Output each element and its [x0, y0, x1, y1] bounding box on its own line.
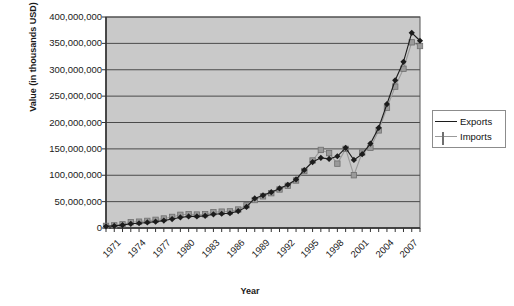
chart-container: 050,000,000100,000,000150,000,000200,000… [0, 0, 514, 306]
legend-item-exports[interactable]: Exports [435, 114, 503, 129]
x-axis-tick-labels: 1971197419771980198319861989199219951998… [0, 0, 514, 306]
legend-item-imports[interactable]: Imports [435, 129, 503, 144]
legend-label-imports: Imports [457, 131, 492, 142]
legend-marker-diamond-icon [435, 116, 457, 127]
legend-label-exports: Exports [457, 116, 492, 127]
y-axis-title: Value (in thousands USD) [28, 0, 38, 142]
x-axis-title: Year [190, 286, 310, 296]
chart-legend: Exports Imports [432, 110, 506, 148]
legend-marker-square-icon [435, 131, 457, 142]
